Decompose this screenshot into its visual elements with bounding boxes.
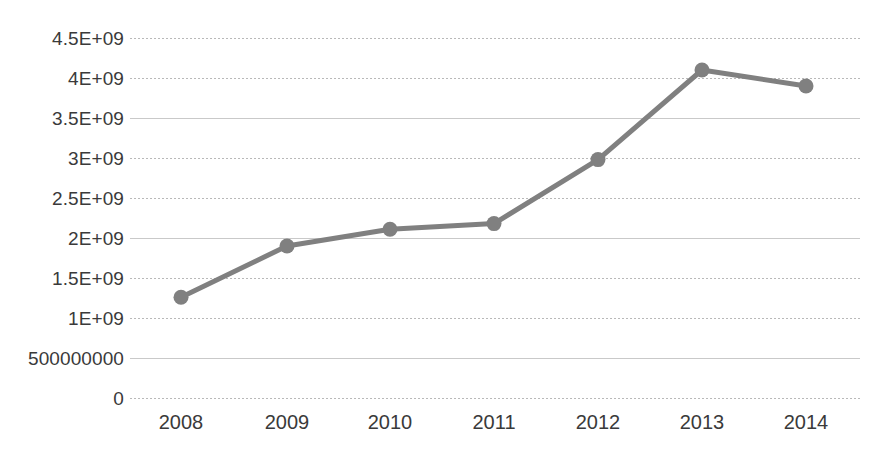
line-chart: 4.5E+09 4E+09 3.5E+09 3E+09 2.5E+09 2E+0… — [0, 0, 886, 464]
y-axis-tick-label: 4.5E+09 — [0, 29, 124, 48]
data-point[interactable] — [174, 290, 189, 305]
data-point[interactable] — [799, 79, 814, 94]
y-axis-tick-label: 2.5E+09 — [0, 189, 124, 208]
data-point[interactable] — [280, 239, 295, 254]
x-axis-tick-label: 2009 — [265, 410, 310, 434]
y-axis-tick-label: 1.5E+09 — [0, 269, 124, 288]
plot-area — [130, 0, 860, 464]
y-axis-tick-label: 1E+09 — [0, 309, 124, 328]
x-axis-tick-label: 2013 — [680, 410, 725, 434]
y-axis-tick-label: 0 — [0, 389, 124, 408]
x-axis-tick-label: 2012 — [576, 410, 621, 434]
y-axis-tick-label: 3E+09 — [0, 149, 124, 168]
y-axis: 4.5E+09 4E+09 3.5E+09 3E+09 2.5E+09 2E+0… — [0, 0, 124, 464]
data-series — [130, 0, 860, 464]
y-axis-tick-label: 2E+09 — [0, 229, 124, 248]
data-point[interactable] — [695, 63, 710, 78]
x-axis-tick-label: 2014 — [784, 410, 829, 434]
x-axis: 2008 2009 2010 2011 2012 2013 2014 — [0, 410, 886, 450]
data-point[interactable] — [487, 216, 502, 231]
series-line — [181, 70, 806, 297]
x-axis-tick-label: 2010 — [368, 410, 413, 434]
x-axis-tick-label: 2011 — [472, 410, 515, 434]
y-axis-tick-label: 4E+09 — [0, 69, 124, 88]
x-axis-tick-label: 2008 — [159, 410, 204, 434]
series-markers — [174, 63, 814, 305]
data-point[interactable] — [591, 152, 606, 167]
y-axis-tick-label: 500000000 — [0, 349, 124, 368]
data-point[interactable] — [383, 222, 398, 237]
y-axis-tick-label: 3.5E+09 — [0, 109, 124, 128]
